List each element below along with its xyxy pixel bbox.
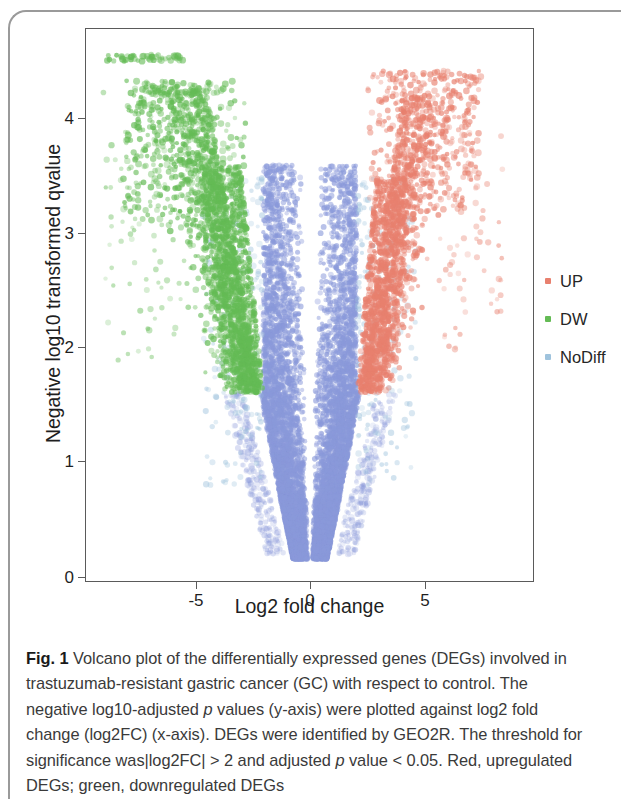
legend-swatch-dw — [545, 316, 551, 322]
y-tick-label-1: 1 — [52, 452, 74, 472]
caption-p-italic-1: p — [203, 700, 212, 718]
caption-figure-number: Fig. 1 — [26, 649, 69, 667]
y-tick-label-4: 4 — [52, 109, 74, 129]
y-tick-mark-3 — [78, 233, 85, 234]
legend-swatch-nodiff — [545, 354, 551, 360]
volcano-plot-figure: 4 3 2 1 0 -5 0 5 Negative log10 transfor… — [0, 0, 621, 632]
legend-item-up[interactable]: UP — [545, 262, 621, 300]
legend-label-dw: DW — [560, 310, 588, 329]
y-tick-label-0: 0 — [52, 568, 74, 588]
y-tick-mark-0 — [78, 577, 85, 578]
legend-label-nodiff: NoDiff — [560, 348, 606, 367]
legend-swatch-up — [545, 278, 551, 284]
y-tick-mark-2 — [78, 347, 85, 348]
caption-line-1: Volcano plot of the differentially expre… — [69, 649, 486, 667]
y-tick-mark-1 — [78, 461, 85, 462]
plot-frame — [85, 28, 534, 582]
y-axis-title: Negative log10 transformed qvalue — [42, 134, 65, 454]
scatter-points — [86, 29, 533, 581]
legend: UP DW NoDiff — [545, 262, 621, 376]
x-tick-mark-neg5 — [196, 582, 197, 589]
x-tick-mark-5 — [425, 582, 426, 589]
x-axis-title: Log2 fold change — [85, 595, 534, 618]
figure-caption: Fig. 1 Volcano plot of the differentiall… — [26, 646, 592, 798]
y-tick-mark-4 — [78, 118, 85, 119]
caption-line-3c: values (y-axis) were plotted — [213, 700, 416, 718]
legend-item-nodiff[interactable]: NoDiff — [545, 338, 621, 376]
x-tick-mark-0 — [310, 582, 311, 589]
legend-label-up: UP — [560, 272, 583, 291]
legend-item-dw[interactable]: DW — [545, 300, 621, 338]
